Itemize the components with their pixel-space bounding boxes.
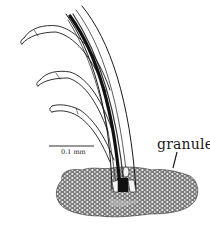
scale-bar-label: 0.1 mm: [61, 148, 86, 156]
stalk-base: [117, 178, 128, 192]
stalk-bulb: [123, 167, 129, 177]
granules-pointer: [173, 152, 177, 168]
stalk: [66, 6, 136, 190]
granules-label: granules: [157, 136, 210, 152]
illustration: [0, 0, 210, 231]
